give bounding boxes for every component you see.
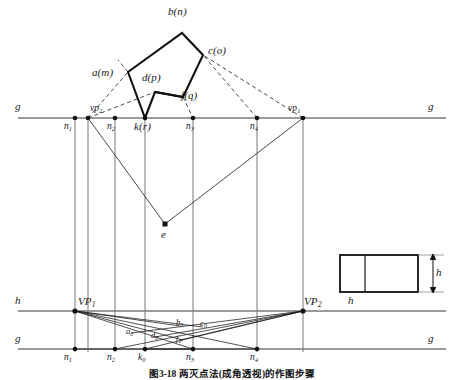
- horizon-label-right: h: [348, 295, 354, 306]
- plan-notch-edge: [155, 92, 183, 97]
- figure-canvas: g g b(n) c(o) a(m) d(p) f(q) k(r) vp2 vp…: [0, 0, 464, 380]
- perspective-construction-diagram: [0, 0, 464, 380]
- plan-label-n3: n3: [186, 122, 194, 132]
- perspective-label-n1: n1: [64, 353, 72, 363]
- plan-eye-rays: [88, 118, 303, 224]
- perspective-label-c0: c0: [200, 319, 207, 328]
- vertex-label-c: c(o): [208, 45, 226, 56]
- plan-label-n2: n2: [107, 122, 115, 132]
- perspective-view-group: [18, 308, 446, 351]
- eye-point-label: e: [161, 229, 166, 240]
- perspective-label-b0: b0: [176, 318, 183, 327]
- plan-label-vp1: vp1: [288, 104, 301, 114]
- label-VP1: VP1: [78, 296, 95, 307]
- vertex-label-d: d(p): [142, 72, 161, 83]
- perspective-ground-label-right: g: [428, 333, 434, 344]
- plan-label-n4: n4: [250, 122, 258, 132]
- elevation-rect: [340, 255, 418, 292]
- elevation-inset-group: [340, 254, 444, 293]
- plan-ground-label-right: g: [428, 101, 434, 112]
- perspective-ground-label-left: g: [15, 333, 21, 344]
- perspective-label-n4: n4: [250, 353, 258, 363]
- eye-point-marker: [163, 222, 168, 227]
- plan-object-outline: [128, 33, 203, 118]
- vertex-label-f: f(q): [181, 90, 197, 101]
- perspective-label-k0: k0: [138, 353, 146, 363]
- figure-caption: 图3-18 两灭点法(成角透视)的作图步骤: [0, 366, 464, 380]
- vp1-convergence-lines: [75, 311, 257, 349]
- plan-label-vp2: vp2: [90, 104, 103, 114]
- perspective-label-f0: f0: [176, 334, 181, 343]
- plan-ground-label-left: g: [15, 101, 21, 112]
- label-VP2: VP2: [304, 296, 321, 307]
- plan-label-n1: n1: [64, 122, 72, 132]
- height-dimension-arrow: [430, 254, 435, 293]
- plan-sight-lines: [88, 55, 303, 118]
- vertex-label-k: k(r): [134, 121, 151, 132]
- horizon-label-left: h: [15, 295, 21, 306]
- perspective-label-n3: n3: [186, 353, 194, 363]
- perspective-label-d0: d0: [151, 331, 158, 340]
- vertex-label-b: b(n): [168, 6, 187, 17]
- vp2-convergence-lines: [115, 311, 303, 349]
- perspective-label-n2: n2: [107, 353, 115, 363]
- vertex-label-a: a(m): [92, 67, 113, 78]
- perspective-label-a0: a0: [126, 327, 133, 336]
- elevation-height-label: h: [436, 267, 442, 278]
